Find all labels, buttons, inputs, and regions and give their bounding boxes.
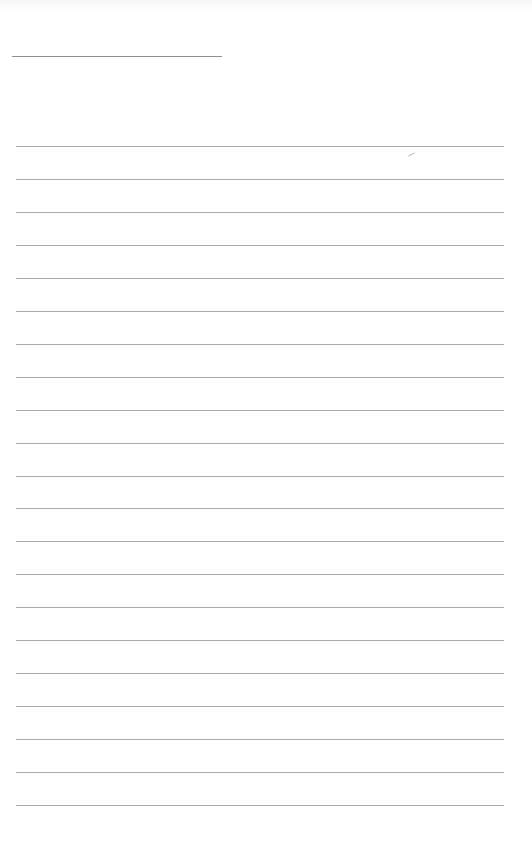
page-top-edge <box>0 0 532 12</box>
ruled-line <box>16 311 504 312</box>
ruled-line <box>16 377 504 378</box>
ruled-line <box>16 344 504 345</box>
ruled-line <box>16 574 504 575</box>
ruled-line <box>16 541 504 542</box>
ruled-line <box>16 443 504 444</box>
ruled-line <box>16 212 504 213</box>
ruled-line <box>16 673 504 674</box>
ruled-line <box>16 410 504 411</box>
ruled-line <box>16 179 504 180</box>
ruled-line <box>16 640 504 641</box>
ruled-line <box>16 706 504 707</box>
ruled-line <box>16 739 504 740</box>
stray-pen-mark <box>408 152 415 156</box>
ruled-line <box>16 146 504 147</box>
ruled-line <box>16 607 504 608</box>
ruled-line <box>16 508 504 509</box>
ruled-line <box>16 245 504 246</box>
ruled-line <box>16 805 504 806</box>
ruled-line <box>16 772 504 773</box>
name-underline <box>12 56 222 57</box>
ruled-line <box>16 476 504 477</box>
ruled-line <box>16 278 504 279</box>
